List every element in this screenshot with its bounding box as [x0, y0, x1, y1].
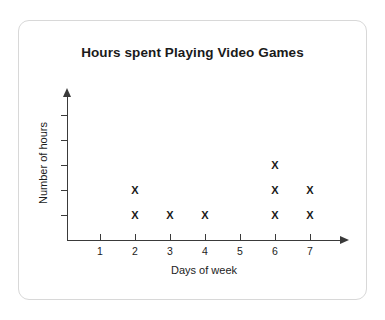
- x-axis-tick: [240, 234, 241, 241]
- x-axis-tick-label: 3: [160, 245, 180, 257]
- x-axis-tick-label: 7: [300, 245, 320, 257]
- y-axis-tick: [61, 115, 68, 116]
- y-axis-tick: [61, 215, 68, 216]
- x-axis-tick-label: 2: [125, 245, 145, 257]
- y-axis-arrow-icon: [63, 88, 71, 97]
- chart-screenshot: Hours spent Playing Video Games 1234567 …: [0, 0, 385, 320]
- x-axis-arrow-icon: [340, 236, 349, 244]
- data-mark-x: X: [162, 208, 178, 222]
- data-mark-x: X: [127, 208, 143, 222]
- x-axis-tick: [205, 234, 206, 241]
- x-axis-tick: [135, 234, 136, 241]
- x-axis-tick-label: 4: [195, 245, 215, 257]
- data-mark-x: X: [267, 158, 283, 172]
- y-axis-title: Number of hours: [37, 93, 49, 233]
- x-axis-tick: [100, 234, 101, 241]
- x-axis-tick-label: 6: [265, 245, 285, 257]
- data-mark-x: X: [302, 208, 318, 222]
- y-axis-tick: [61, 165, 68, 166]
- y-axis-tick: [61, 190, 68, 191]
- x-axis-tick-label: 5: [230, 245, 250, 257]
- data-mark-x: X: [302, 183, 318, 197]
- data-mark-x: X: [267, 183, 283, 197]
- x-axis-tick: [275, 234, 276, 241]
- data-mark-x: X: [267, 208, 283, 222]
- data-mark-x: X: [127, 183, 143, 197]
- x-axis-tick-label: 1: [90, 245, 110, 257]
- y-axis-line: [67, 97, 68, 241]
- x-axis-title: Days of week: [67, 264, 341, 276]
- x-axis-tick: [170, 234, 171, 241]
- data-mark-x: X: [197, 208, 213, 222]
- x-axis-tick: [310, 234, 311, 241]
- x-axis-line: [67, 240, 341, 241]
- y-axis-tick: [61, 140, 68, 141]
- plot-area: 1234567 XXXXXXXXX Days of week Number of…: [0, 0, 385, 320]
